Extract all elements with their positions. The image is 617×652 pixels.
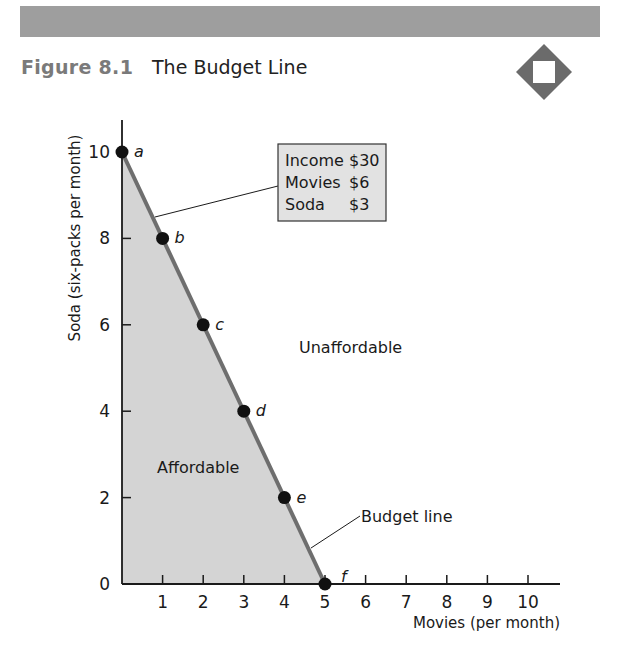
unaffordable-label: Unaffordable [299, 338, 402, 357]
legend-value: $6 [349, 173, 369, 192]
point-c [197, 318, 210, 331]
x-tick-label: 4 [279, 592, 290, 612]
point-label-b: b [175, 228, 185, 247]
legend-value: $3 [349, 195, 369, 214]
x-tick-label: 7 [401, 592, 412, 612]
legend-value: $30 [349, 151, 380, 170]
point-label-d: d [256, 401, 267, 420]
point-label-c: c [215, 315, 224, 334]
x-tick-label: 10 [517, 592, 539, 612]
point-f [319, 578, 332, 591]
point-label-e: e [296, 488, 306, 507]
budget-line-chart: 024681012345678910Movies (per month)Soda… [0, 0, 617, 652]
legend-label: Income [285, 151, 344, 170]
point-label-a: a [134, 142, 144, 161]
x-tick-label: 1 [157, 592, 168, 612]
point-d [237, 405, 250, 418]
x-tick-label: 2 [198, 592, 209, 612]
y-tick-label: 2 [99, 488, 110, 508]
x-tick-label: 8 [441, 592, 452, 612]
x-tick-label: 5 [320, 592, 331, 612]
x-axis-label: Movies (per month) [413, 614, 560, 632]
point-a [116, 146, 129, 159]
x-tick-label: 6 [360, 592, 371, 612]
legend-leader-line [155, 186, 278, 217]
legend-label: Movies [285, 173, 341, 192]
y-tick-label: 0 [99, 574, 110, 594]
y-tick-label: 4 [99, 401, 110, 421]
y-tick-label: 10 [88, 142, 110, 162]
y-axis-label: Soda (six-packs per month) [66, 135, 84, 342]
point-e [278, 491, 291, 504]
budget-line-leader [311, 516, 360, 548]
budget-line-label: Budget line [361, 507, 453, 526]
x-tick-label: 9 [482, 592, 493, 612]
legend-label: Soda [285, 195, 325, 214]
y-tick-label: 8 [99, 228, 110, 248]
y-tick-label: 6 [99, 315, 110, 335]
point-b [156, 232, 169, 245]
x-tick-label: 3 [238, 592, 249, 612]
affordable-label: Affordable [157, 458, 239, 477]
